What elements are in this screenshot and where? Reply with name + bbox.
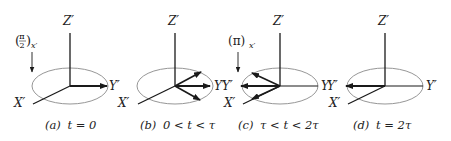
dephasing-vector-lower-icon <box>175 86 200 100</box>
z-axis-label: Z′ <box>272 14 284 28</box>
panel-c: Z′ Y′ Y′ X′ (π) x′ (c) τ < t < 2τ <box>222 14 332 132</box>
y-axis-label: Y′ <box>426 79 437 93</box>
x-axis <box>138 86 175 104</box>
refocusing-vector-lower-icon <box>252 86 280 99</box>
refocusing-vector-upper-icon <box>252 73 280 86</box>
dephasing-vector-upper-icon <box>175 72 201 86</box>
z-axis-label: Z′ <box>62 14 74 28</box>
panel-a: Z′ Y′ X′ ( π 2 ) x′ (a) t = 0 <box>13 14 120 132</box>
svg-text:π: π <box>19 32 24 41</box>
x-axis-label: X′ <box>328 96 341 110</box>
svg-text:(π): (π) <box>228 34 245 48</box>
pulse-label-pi-over-2: ( π 2 ) x′ <box>15 32 38 50</box>
y-axis-label: Y′ <box>109 79 120 93</box>
x-axis-label: X′ <box>117 96 130 110</box>
caption-b: (b) 0 < t < τ <box>140 118 216 132</box>
svg-text:x′: x′ <box>249 41 256 50</box>
caption-d: (d) t = 2τ <box>353 118 412 132</box>
z-axis-label: Z′ <box>167 14 179 28</box>
x-axis <box>33 86 70 104</box>
z-axis-label: Z′ <box>377 14 389 28</box>
x-axis-label: X′ <box>223 96 236 110</box>
spin-echo-diagram: Z′ Y′ X′ ( π 2 ) x′ (a) t = 0 Z′ Y′ X′ (… <box>0 0 451 141</box>
x-axis <box>348 86 385 104</box>
caption-c: (c) τ < t < 2τ <box>238 118 319 132</box>
neg-y-axis-label: Y′ <box>327 79 338 93</box>
x-axis-label: X′ <box>13 96 26 110</box>
neg-y-axis-label: Y′ <box>222 79 233 93</box>
panel-b: Z′ Y′ X′ (b) 0 < t < τ <box>117 14 225 132</box>
svg-text:2: 2 <box>19 41 24 50</box>
caption-a: (a) t = 0 <box>45 118 96 132</box>
panel-d: Z′ Y′ Y′ X′ (d) t = 2τ <box>327 14 437 132</box>
pulse-label-pi: (π) x′ <box>228 34 256 50</box>
svg-text:x′: x′ <box>31 41 38 50</box>
